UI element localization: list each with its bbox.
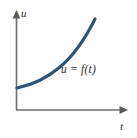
y-axis-arrowhead-icon [13,10,21,19]
function-graph-figure: u t u = f(t) [0,0,137,138]
y-axis-label: u [21,8,27,19]
curve-equation-label: u = f(t) [61,64,96,76]
function-curve [17,19,95,88]
x-axis-label: t [120,121,123,132]
x-axis-arrowhead-icon [120,106,129,114]
